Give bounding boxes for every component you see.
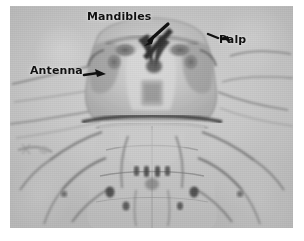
- annotation-arrow-mandibles: [138, 20, 178, 50]
- annotation-label-antenna: Antenna: [30, 65, 83, 76]
- annotation-arrow-palp: [206, 32, 232, 48]
- specimen-photograph: Mandibles Palp Antenna: [10, 6, 293, 228]
- annotation-arrow-antenna: [82, 64, 110, 82]
